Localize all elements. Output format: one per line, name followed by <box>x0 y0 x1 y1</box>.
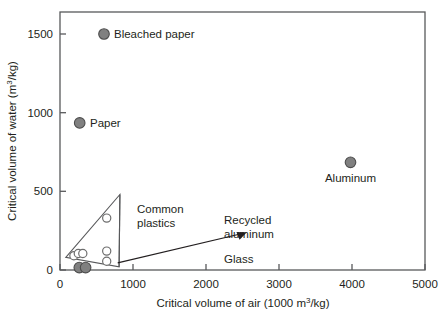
y-tick-label-0: 0 <box>47 264 53 276</box>
paper-label: Paper <box>90 117 121 129</box>
x-tick-label-4000: 4000 <box>339 278 365 290</box>
point-paper <box>74 118 85 129</box>
x-axis-title-suffix: /kg) <box>310 297 329 309</box>
point-glass <box>80 262 91 273</box>
x-tick-label-1000: 1000 <box>120 278 146 290</box>
plastic-point <box>79 249 87 257</box>
plastic-point <box>103 257 111 265</box>
plastic-point <box>103 214 111 222</box>
common-plastics-label-line1: Common <box>137 203 184 215</box>
common-plastics-label-line2: plastics <box>137 217 176 229</box>
y-tick-label-500: 500 <box>34 185 53 197</box>
y-axis-title-prefix: Critical volume of water (m <box>6 85 18 221</box>
y-tick-labels: 0 500 1000 1500 <box>27 28 53 276</box>
bleached-paper-label: Bleached paper <box>114 28 195 40</box>
point-aluminum <box>345 157 356 168</box>
glass-label: Glass <box>224 253 254 265</box>
x-tick-label-0: 0 <box>57 278 63 290</box>
y-tick-label-1000: 1000 <box>27 107 53 119</box>
y-axis-title-suffix: /kg) <box>6 61 18 80</box>
plastic-point <box>103 247 111 255</box>
recycled-aluminum-label-line1: Recycled <box>224 214 271 226</box>
x-tick-labels: 0 1000 2000 3000 4000 5000 <box>57 278 438 290</box>
point-bleached-paper <box>99 29 110 40</box>
scatter-chart-figure: 0 500 1000 1500 0 1000 2000 3000 4000 50… <box>0 0 442 316</box>
x-tick-label-3000: 3000 <box>266 278 292 290</box>
aluminum-label: Aluminum <box>325 172 376 184</box>
x-axis-title-prefix: Critical volume of air (1000 m <box>156 297 306 309</box>
recycled-aluminum-label-line2: aluminum <box>224 228 274 240</box>
y-tick-label-1500: 1500 <box>27 28 53 40</box>
x-tick-label-5000: 5000 <box>412 278 438 290</box>
y-axis-title: Critical volume of water (m3/kg) <box>5 61 18 221</box>
chart-canvas: 0 500 1000 1500 0 1000 2000 3000 4000 50… <box>0 0 442 316</box>
x-axis-title: Critical volume of air (1000 m3/kg) <box>156 296 329 309</box>
x-tick-label-2000: 2000 <box>193 278 219 290</box>
